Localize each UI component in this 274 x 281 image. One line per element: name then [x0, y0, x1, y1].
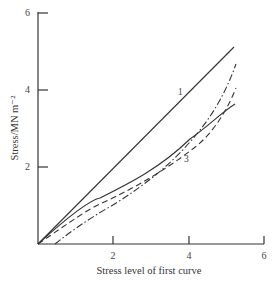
x-tick-label-2: 2 — [111, 250, 116, 261]
x-axis-title: Stress level of first curve — [97, 265, 202, 276]
curve-3-label: 3 — [184, 154, 189, 164]
y-tick-label-2: 2 — [25, 161, 30, 172]
y-tick-label-6: 6 — [25, 7, 30, 18]
curve-1 — [38, 47, 234, 244]
chart: 6 4 2 2 4 6 Stress level of first curve … — [0, 0, 274, 281]
curve-dash-dot — [55, 64, 236, 244]
x-tick-label-4: 4 — [187, 250, 192, 261]
y-tick-label-4: 4 — [25, 84, 30, 95]
y-axis-title: Stress/MN m⁻² — [9, 96, 20, 161]
curve-3 — [38, 88, 236, 244]
curve-2 — [38, 104, 235, 244]
x-tick-label-6: 6 — [262, 250, 267, 261]
curve-1-label: 1 — [178, 87, 183, 97]
